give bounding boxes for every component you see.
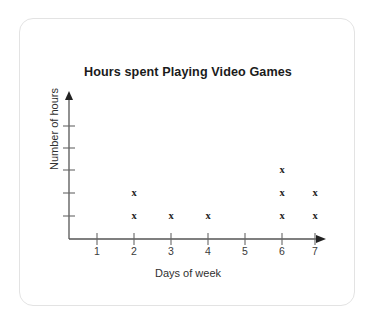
data-mark-day3-1: x [164, 209, 178, 223]
data-mark-day2-1: x [127, 186, 141, 200]
y-axis-arrow [65, 91, 73, 100]
x-tick-label-4: 4 [200, 245, 216, 257]
x-tick-label-3: 3 [163, 245, 179, 257]
x-tick-label-5: 5 [237, 245, 253, 257]
data-mark-day4-1: x [201, 209, 215, 223]
data-mark-day2-2: x [127, 209, 141, 223]
x-axis-arrow [316, 235, 326, 243]
x-tick-label-2: 2 [126, 245, 142, 257]
data-mark-day6-1: x [275, 163, 289, 177]
data-mark-day7-1: x [308, 186, 322, 200]
screenshot-root: Hours spent Playing Video Games [0, 0, 374, 324]
data-mark-day6-3: x [275, 209, 289, 223]
y-axis-label: Number of hours [48, 69, 60, 189]
x-tick-label-7: 7 [307, 245, 323, 257]
data-mark-day7-2: x [308, 209, 322, 223]
axes-svg [20, 19, 356, 307]
chart-card: Hours spent Playing Video Games [19, 18, 355, 306]
x-tick-label-6: 6 [274, 245, 290, 257]
plot-area: Number of hours 1 2 3 4 5 6 7 x x x x x … [20, 19, 356, 307]
x-tick-label-1: 1 [89, 245, 105, 257]
x-axis-label: Days of week [20, 267, 356, 279]
data-mark-day6-2: x [275, 186, 289, 200]
